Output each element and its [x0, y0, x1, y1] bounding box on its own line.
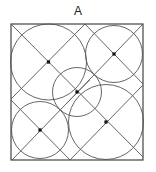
center-dot [47, 60, 50, 63]
center-dot [104, 120, 107, 123]
center-dot [112, 52, 115, 55]
geometry-diagram [0, 0, 156, 172]
center-dot [38, 128, 41, 131]
center-dot [75, 90, 78, 93]
